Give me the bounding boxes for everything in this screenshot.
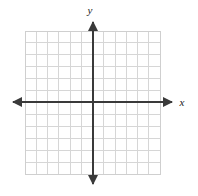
- coordinate-plane-svg: x y: [0, 0, 198, 196]
- x-axis-label: x: [179, 96, 185, 108]
- figure-background: [0, 0, 198, 196]
- coordinate-plane-figure: x y: [0, 0, 198, 196]
- y-axis-label: y: [87, 4, 93, 16]
